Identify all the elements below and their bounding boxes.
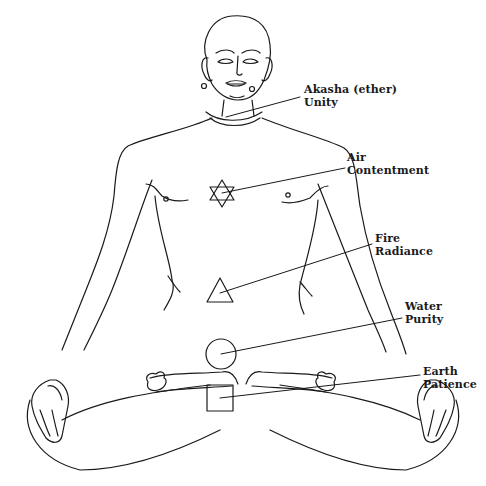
label-water: Water Purity: [405, 300, 443, 326]
leader-line-earth: [220, 375, 420, 398]
element-quality: Patience: [423, 378, 477, 391]
chakra-diagram: Akasha (ether) Unity Air Contentment Fir…: [0, 0, 486, 486]
element-quality: Purity: [405, 313, 443, 326]
element-quality: Radiance: [375, 245, 433, 258]
hands: [32, 380, 455, 442]
label-akasha: Akasha (ether) Unity: [304, 83, 397, 109]
leader-line-air: [222, 168, 345, 193]
label-fire: Fire Radiance: [375, 232, 433, 258]
element-name: Air: [347, 151, 429, 164]
label-air: Air Contentment: [347, 151, 429, 177]
legs: [27, 372, 458, 470]
element-name: Akasha (ether): [304, 83, 397, 96]
element-name: Water: [405, 300, 443, 313]
leader-line-fire: [220, 244, 372, 293]
label-earth: Earth Patience: [423, 365, 477, 391]
element-symbols: [206, 180, 236, 411]
element-name: Fire: [375, 232, 433, 245]
head: [202, 16, 273, 100]
element-name: Earth: [423, 365, 477, 378]
element-quality: Contentment: [347, 164, 429, 177]
element-quality: Unity: [304, 96, 397, 109]
neck: [206, 100, 262, 126]
leader-line-water: [221, 318, 402, 354]
